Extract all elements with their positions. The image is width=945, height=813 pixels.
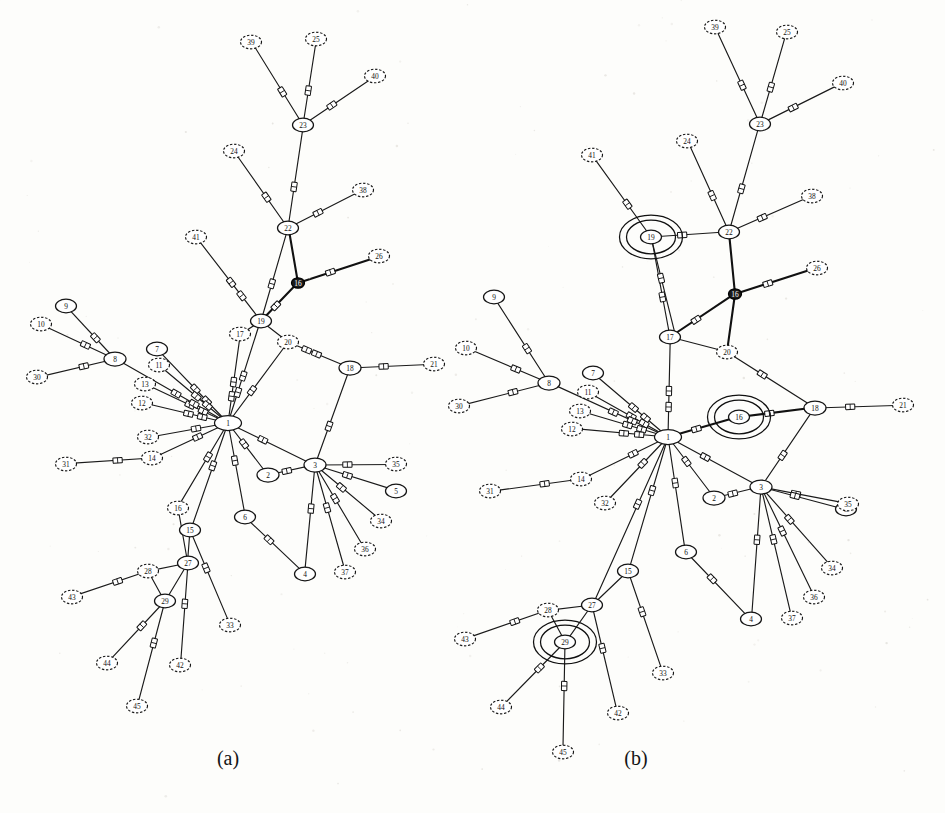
node-7[interactable]: 7 — [147, 342, 168, 356]
speckle — [171, 456, 172, 457]
node-43[interactable]: 43 — [62, 590, 83, 604]
node-14[interactable]: 14 — [142, 451, 163, 465]
node-25[interactable]: 25 — [306, 32, 327, 46]
node-23[interactable]: 23 — [293, 118, 314, 132]
node-18[interactable]: 18 — [339, 361, 361, 375]
node-10[interactable]: 10 — [456, 341, 477, 355]
speckle — [313, 408, 314, 409]
node-36[interactable]: 36 — [804, 590, 825, 604]
speckle — [50, 546, 51, 547]
node-17[interactable]: 17 — [230, 327, 251, 341]
node-4[interactable]: 4 — [741, 612, 762, 626]
node-40[interactable]: 40 — [833, 76, 854, 90]
node-45[interactable]: 45 — [127, 699, 148, 713]
node-13[interactable]: 13 — [135, 377, 156, 391]
node-14[interactable]: 14 — [571, 472, 592, 486]
node-33[interactable]: 33 — [653, 666, 674, 680]
node-20[interactable]: 20 — [278, 335, 299, 349]
node-2[interactable]: 2 — [703, 491, 725, 505]
node-17[interactable]: 17 — [660, 330, 681, 344]
node-12[interactable]: 12 — [132, 396, 153, 410]
node-21[interactable]: 21 — [424, 357, 445, 371]
node-35[interactable]: 35 — [838, 497, 859, 511]
speckle — [481, 768, 483, 770]
node-30[interactable]: 30 — [449, 399, 470, 413]
node-19[interactable]: 19 — [641, 230, 662, 244]
node-label-33: 33 — [659, 669, 667, 678]
node-34[interactable]: 34 — [822, 561, 843, 575]
node-37[interactable]: 37 — [335, 565, 356, 579]
node-26[interactable]: 26 — [807, 261, 828, 275]
node-10[interactable]: 10 — [31, 317, 52, 331]
node-1[interactable]: 1 — [215, 416, 242, 431]
node-20[interactable]: 20 — [717, 345, 738, 359]
node-35[interactable]: 35 — [386, 457, 407, 471]
node-1[interactable]: 1 — [655, 430, 682, 445]
node-16[interactable]: 16 — [292, 278, 305, 288]
node-43[interactable]: 43 — [455, 632, 476, 646]
node-39[interactable]: 39 — [705, 20, 726, 34]
node-28[interactable]: 28 — [538, 603, 559, 617]
node-45[interactable]: 45 — [553, 745, 574, 759]
node-38[interactable]: 38 — [802, 189, 823, 203]
node-16d[interactable]: 16 — [729, 289, 742, 299]
node-31[interactable]: 31 — [56, 457, 77, 471]
node-39[interactable]: 39 — [241, 35, 262, 49]
node-11[interactable]: 11 — [578, 385, 599, 399]
node-24[interactable]: 24 — [677, 134, 698, 148]
node-label-20: 20 — [284, 338, 292, 347]
node-label-19: 19 — [257, 317, 265, 326]
node-23[interactable]: 23 — [750, 117, 771, 131]
speckle — [307, 567, 309, 569]
speckle — [308, 693, 309, 694]
node-28[interactable]: 28 — [138, 564, 159, 578]
node-34[interactable]: 34 — [371, 514, 392, 528]
node-25[interactable]: 25 — [777, 25, 798, 39]
node-7[interactable]: 7 — [583, 366, 604, 380]
node-27[interactable]: 27 — [178, 556, 199, 570]
node-27[interactable]: 27 — [582, 598, 603, 612]
node-15[interactable]: 15 — [180, 523, 201, 537]
node-4[interactable]: 4 — [295, 567, 316, 581]
node-42[interactable]: 42 — [170, 658, 191, 672]
node-16n[interactable]: 16 — [168, 501, 189, 515]
node-42[interactable]: 42 — [608, 706, 629, 720]
node-36[interactable]: 36 — [355, 542, 376, 556]
node-19[interactable]: 19 — [251, 314, 272, 328]
node-32[interactable]: 32 — [595, 496, 616, 510]
node-16[interactable]: 16 — [729, 410, 750, 424]
node-38[interactable]: 38 — [353, 183, 374, 197]
node-44[interactable]: 44 — [491, 700, 512, 714]
node-15[interactable]: 15 — [618, 564, 639, 578]
node-12[interactable]: 12 — [562, 422, 583, 436]
node-8[interactable]: 8 — [104, 352, 126, 366]
node-13[interactable]: 13 — [570, 404, 591, 418]
node-6[interactable]: 6 — [235, 510, 256, 524]
node-8[interactable]: 8 — [538, 376, 560, 390]
node-37[interactable]: 37 — [782, 611, 803, 625]
node-11[interactable]: 11 — [149, 358, 170, 372]
node-29[interactable]: 29 — [155, 594, 176, 608]
node-22[interactable]: 22 — [719, 225, 740, 239]
node-31[interactable]: 31 — [480, 484, 501, 498]
node-33[interactable]: 33 — [220, 618, 241, 632]
node-18[interactable]: 18 — [804, 401, 826, 415]
node-24[interactable]: 24 — [224, 144, 245, 158]
node-29[interactable]: 29 — [555, 635, 576, 649]
node-30[interactable]: 30 — [27, 370, 48, 384]
node-9[interactable]: 9 — [484, 290, 505, 304]
node-9[interactable]: 9 — [56, 299, 77, 313]
node-21[interactable]: 21 — [893, 398, 914, 412]
node-3[interactable]: 3 — [304, 458, 326, 472]
node-32[interactable]: 32 — [138, 430, 159, 444]
node-26[interactable]: 26 — [369, 249, 390, 263]
node-41[interactable]: 41 — [186, 230, 207, 244]
node-44[interactable]: 44 — [97, 656, 118, 670]
node-22[interactable]: 22 — [278, 221, 299, 235]
node-2[interactable]: 2 — [257, 468, 279, 482]
node-40[interactable]: 40 — [365, 69, 386, 83]
node-5[interactable]: 5 — [386, 484, 407, 498]
node-6[interactable]: 6 — [676, 545, 697, 559]
node-41[interactable]: 41 — [582, 148, 603, 162]
node-3[interactable]: 3 — [750, 480, 772, 494]
